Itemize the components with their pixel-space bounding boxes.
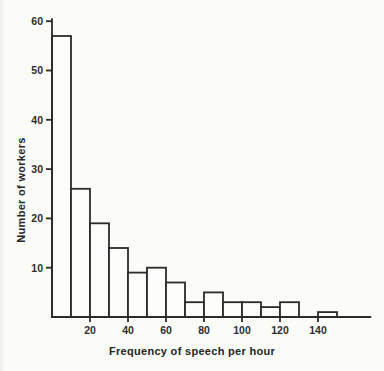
histogram-bar-40-50 (128, 273, 147, 317)
x-tick-label-40: 40 (122, 324, 134, 336)
scanned-chart-page: 10203040506020406080100120140 Frequency … (0, 0, 384, 371)
histogram-bar-120-130 (280, 302, 299, 317)
y-tick-label-60: 60 (31, 15, 43, 27)
x-tick-label-140: 140 (309, 324, 327, 336)
x-tick-label-100: 100 (233, 324, 251, 336)
y-tick-label-50: 50 (31, 64, 43, 76)
y-axis-label: Number of workers (15, 137, 27, 242)
x-tick-label-60: 60 (160, 324, 172, 336)
histogram-bar-100-110 (242, 302, 261, 317)
histogram-bar-30-40 (109, 248, 128, 317)
histogram-bar-70-80 (185, 302, 204, 317)
y-tick-label-10: 10 (31, 262, 43, 274)
y-tick-label-20: 20 (31, 212, 43, 224)
histogram-bar-10-20 (71, 189, 90, 317)
histogram-bar-110-120 (261, 307, 280, 317)
histogram-bar-80-90 (204, 292, 223, 317)
x-tick-label-20: 20 (84, 324, 96, 336)
histogram-bar-0-10 (52, 36, 71, 317)
x-tick-label-80: 80 (198, 324, 210, 336)
histogram-svg: 10203040506020406080100120140 (0, 0, 384, 371)
histogram-bar-90-100 (223, 302, 242, 317)
x-axis-label: Frequency of speech per hour (0, 345, 384, 357)
y-tick-label-30: 30 (31, 163, 43, 175)
bars-group (52, 36, 337, 317)
y-tick-label-40: 40 (31, 114, 43, 126)
histogram-bar-50-60 (147, 268, 166, 317)
histogram-bar-20-30 (90, 223, 109, 317)
histogram-bar-60-70 (166, 283, 185, 318)
x-tick-label-120: 120 (271, 324, 289, 336)
